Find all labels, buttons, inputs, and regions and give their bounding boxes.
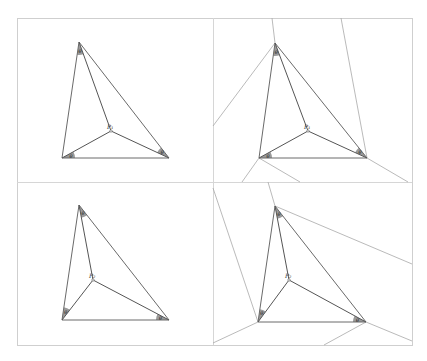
angle-label: θ	[161, 149, 164, 155]
angle-label: θ	[81, 210, 84, 216]
cevian-line	[79, 42, 111, 131]
diagram-canvas: θθθP₁θθθP₁θθθP₂θθθP₂	[0, 0, 427, 361]
point-label: P₂	[88, 272, 96, 279]
construction-line	[324, 322, 366, 345]
angle-label: θ	[79, 48, 82, 54]
angle-label: θ	[64, 309, 67, 315]
angle-label: θ	[159, 315, 162, 321]
angle-label: θ	[356, 317, 359, 323]
panel-top-left: θθθP₁	[62, 42, 169, 159]
angle-label: θ	[277, 211, 280, 217]
construction-line	[259, 158, 300, 182]
construction-line	[367, 158, 408, 182]
construction-line	[268, 182, 275, 206]
triangle	[62, 42, 169, 158]
triangle	[258, 206, 366, 322]
brocard-point	[110, 130, 112, 132]
construction-line	[341, 18, 367, 158]
cevian-line	[275, 206, 289, 280]
angle-label: θ	[275, 49, 278, 55]
angle-label: θ	[69, 153, 72, 159]
angle-label: θ	[266, 153, 269, 159]
construction-line	[275, 206, 412, 264]
triangle	[259, 43, 367, 158]
cevian-line	[79, 205, 93, 280]
point-label: P₁	[303, 123, 310, 130]
cevian-line	[93, 280, 169, 320]
construction-line	[242, 158, 259, 182]
panel-bottom-right: θθθP₂	[213, 182, 412, 345]
brocard-point	[307, 130, 309, 132]
construction-line	[213, 188, 258, 322]
panels-group: θθθP₁θθθP₁θθθP₂θθθP₂	[62, 18, 412, 345]
brocard-point	[92, 279, 94, 281]
panel-top-right: θθθP₁	[213, 18, 408, 182]
angle-label: θ	[260, 310, 263, 316]
construction-line	[213, 322, 258, 343]
cevian-line	[289, 280, 366, 322]
panel-bottom-left: θθθP₂	[62, 205, 169, 321]
brocard-point	[288, 279, 290, 281]
construction-line	[213, 43, 275, 126]
point-label: P₂	[284, 272, 292, 279]
construction-line	[272, 18, 275, 43]
triangle	[62, 205, 169, 320]
cevian-line	[275, 43, 308, 131]
construction-line	[366, 322, 412, 341]
angle-label: θ	[359, 149, 362, 155]
point-label: P₁	[106, 123, 113, 130]
